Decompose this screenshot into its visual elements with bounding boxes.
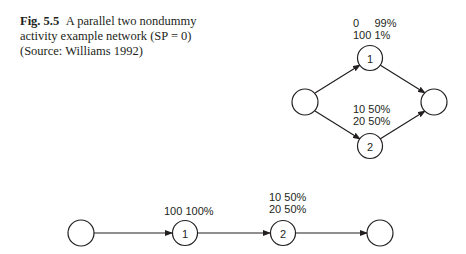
- series-network: 1 2 100 100% 10 50% 20 50%: [68, 191, 393, 246]
- node-end: [367, 220, 393, 246]
- edge-start-to-1: [315, 65, 360, 93]
- activity-1-annotation-line-2: 100 1%: [353, 29, 391, 41]
- node-2-label: 2: [367, 141, 373, 153]
- activity-2-annotation-line-2: 20 50%: [269, 203, 307, 215]
- network-diagrams: 1 2 0 99% 100 1% 10 50% 20 50% 1 2 100 1…: [0, 0, 466, 254]
- edge-1-to-end: [380, 65, 425, 93]
- activity-1-annotation-line-1: 100 100%: [164, 205, 214, 217]
- parallel-network: 1 2 0 99% 100 1% 10 50% 20 50%: [292, 17, 447, 159]
- node-1-label: 1: [367, 53, 373, 65]
- activity-2-annotation-line-2: 20 50%: [353, 115, 391, 127]
- node-2-label: 2: [280, 228, 286, 240]
- node-start: [68, 220, 94, 246]
- activity-1-annotation-line-1: 0 99%: [353, 17, 397, 29]
- node-end: [421, 89, 447, 115]
- activity-2-annotation-line-1: 10 50%: [353, 103, 391, 115]
- activity-2-annotation-line-1: 10 50%: [269, 191, 307, 203]
- node-start: [292, 89, 318, 115]
- node-1-label: 1: [182, 228, 188, 240]
